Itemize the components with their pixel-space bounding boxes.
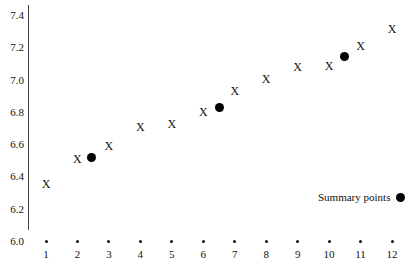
y-tick-label: 6.2	[2, 203, 24, 215]
x-tick-mark	[139, 240, 142, 243]
observation-marker: X	[322, 60, 336, 72]
summary-point	[87, 153, 96, 162]
x-tick-mark	[233, 240, 236, 243]
x-tick-mark	[328, 240, 331, 243]
summary-point	[215, 103, 224, 112]
legend: Summary points	[318, 191, 405, 203]
y-tick-label: 6.4	[2, 170, 24, 182]
observation-marker: X	[165, 118, 179, 130]
x-tick-label: 2	[67, 248, 87, 260]
x-tick-label: 10	[319, 248, 339, 260]
x-tick-label: 8	[256, 248, 276, 260]
x-tick-label: 12	[382, 248, 402, 260]
y-tick-label: 6.0	[2, 235, 24, 247]
observation-marker: X	[228, 85, 242, 97]
observation-marker: X	[70, 153, 84, 165]
x-tick-label: 3	[99, 248, 119, 260]
x-tick-mark	[76, 240, 79, 243]
x-tick-label: 6	[193, 248, 213, 260]
observation-marker: X	[133, 121, 147, 133]
observation-marker: X	[259, 73, 273, 85]
x-tick-mark	[170, 240, 173, 243]
x-tick-mark	[265, 240, 268, 243]
y-tick-label: 7.0	[2, 74, 24, 86]
x-tick-label: 9	[288, 248, 308, 260]
legend-label: Summary points	[318, 191, 390, 203]
x-tick-label: 5	[162, 248, 182, 260]
observation-marker: X	[354, 40, 368, 52]
x-tick-label: 1	[36, 248, 56, 260]
observation-marker: X	[196, 106, 210, 118]
y-tick-label: 6.6	[2, 138, 24, 150]
summary-point-icon	[396, 193, 405, 202]
observation-marker: X	[39, 178, 53, 190]
summary-point	[340, 52, 349, 61]
scatter-chart: 6.06.26.46.66.87.07.27.4 123456789101112…	[0, 0, 416, 266]
y-tick-label: 7.4	[2, 9, 24, 21]
observation-marker: X	[291, 61, 305, 73]
x-tick-mark	[296, 240, 299, 243]
observation-marker: X	[385, 23, 399, 35]
y-tick-label: 7.2	[2, 41, 24, 53]
x-tick-mark	[359, 240, 362, 243]
x-tick-label: 11	[351, 248, 371, 260]
x-tick-label: 4	[130, 248, 150, 260]
x-tick-mark	[202, 240, 205, 243]
x-tick-mark	[45, 240, 48, 243]
x-tick-label: 7	[225, 248, 245, 260]
x-tick-mark	[391, 240, 394, 243]
observation-marker: X	[102, 140, 116, 152]
y-tick-label: 6.8	[2, 106, 24, 118]
y-axis-line	[28, 5, 29, 230]
x-tick-mark	[107, 240, 110, 243]
